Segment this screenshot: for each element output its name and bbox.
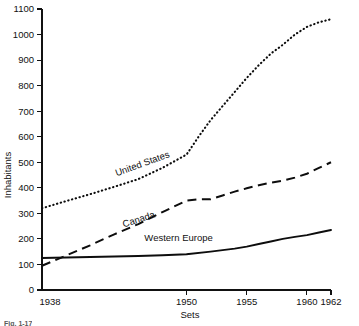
series-label-western-europe: Western Europe (144, 232, 212, 243)
y-tick-label: 300 (18, 208, 34, 219)
y-axis-group: 010020030040050060070080090010001100 (13, 3, 42, 295)
x-axis-title: Sets (180, 309, 199, 320)
series-line-canada (42, 162, 331, 265)
x-tick-label: 1950 (176, 296, 197, 307)
series-label-canada: Canada (121, 208, 157, 229)
y-axis-title: Inhabitants (2, 152, 13, 199)
y-tick-label: 800 (18, 80, 34, 91)
y-axis-tick-labels: 010020030040050060070080090010001100 (13, 3, 34, 295)
x-axis-group: 19381950195519601962 (39, 290, 341, 307)
x-tick-label: 1938 (39, 296, 60, 307)
y-tick-label: 700 (18, 106, 34, 117)
series-label-united-states: United States (114, 148, 172, 178)
chart-figure: 010020030040050060070080090010001100 193… (0, 0, 359, 326)
x-axis-ticks (187, 290, 332, 295)
y-tick-label: 200 (18, 233, 34, 244)
x-tick-label: 1955 (236, 296, 257, 307)
chart-svg: 010020030040050060070080090010001100 193… (0, 0, 359, 326)
plot-series-group (42, 19, 331, 266)
y-tick-label: 900 (18, 54, 34, 65)
x-axis-tick-labels: 19381950195519601962 (39, 296, 341, 307)
y-axis-ticks (37, 9, 42, 290)
y-tick-label: 1100 (14, 3, 34, 14)
y-tick-label: 0 (29, 284, 34, 295)
x-tick-label: 1960 (296, 296, 317, 307)
y-tick-label: 600 (18, 131, 34, 142)
y-tick-label: 100 (18, 259, 34, 270)
y-tick-label: 1000 (13, 29, 34, 40)
x-tick-label: 1962 (320, 296, 341, 307)
y-tick-label: 500 (18, 157, 34, 168)
figure-caption: Fig. 1-17 (4, 320, 32, 326)
y-tick-label: 400 (18, 182, 34, 193)
